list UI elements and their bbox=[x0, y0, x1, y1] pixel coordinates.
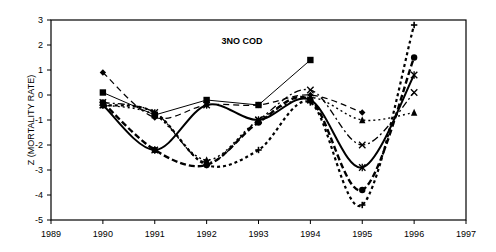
y-tick-label: 3 bbox=[38, 15, 43, 25]
mortality-chart: 3NO COD Z (MORTALITY RATE) 3210-1-2-3-4-… bbox=[0, 0, 496, 252]
x-tick-label: 1990 bbox=[93, 229, 113, 239]
x-tick-label: 1997 bbox=[456, 229, 476, 239]
y-tick-label: -3 bbox=[35, 165, 43, 175]
y-tick-label: -4 bbox=[35, 190, 43, 200]
y-tick-label: 2 bbox=[38, 40, 43, 50]
y-tick-label: -1 bbox=[35, 115, 43, 125]
y-axis: 3210-1-2-3-4-5 bbox=[35, 15, 51, 225]
x-tick-label: 1993 bbox=[248, 229, 268, 239]
chart-title: 3NO COD bbox=[221, 36, 263, 46]
y-tick-label: -5 bbox=[35, 215, 43, 225]
y-tick-label: -2 bbox=[35, 140, 43, 150]
x-tick-label: 1995 bbox=[352, 229, 372, 239]
y-tick-label: 1 bbox=[38, 65, 43, 75]
x-tick-label: 1989 bbox=[41, 229, 61, 239]
x-axis: 198919901991199219931994199519961997 bbox=[41, 220, 476, 239]
x-tick-label: 1991 bbox=[145, 229, 165, 239]
x-tick-label: 1992 bbox=[197, 229, 217, 239]
x-tick-label: 1994 bbox=[300, 229, 320, 239]
x-tick-label: 1996 bbox=[404, 229, 424, 239]
y-tick-label: 0 bbox=[38, 90, 43, 100]
